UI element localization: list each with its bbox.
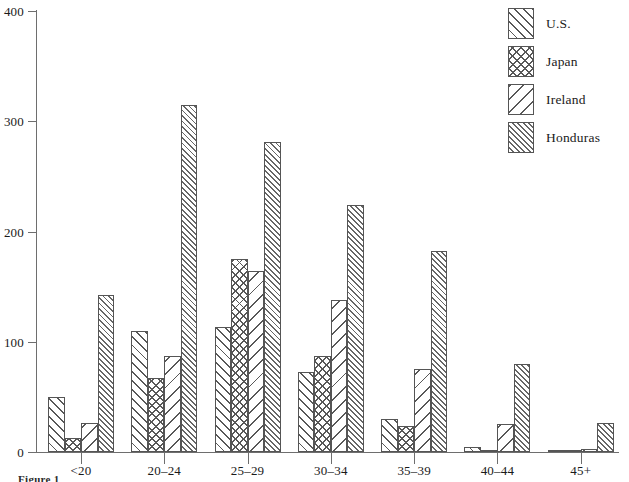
x-axis-tick-label: 40–44: [452, 464, 542, 478]
bar: [497, 424, 514, 452]
y-axis-tick-label: 100: [0, 336, 24, 349]
bar: [564, 450, 581, 452]
bar: [581, 449, 598, 452]
figure-caption: Figure 1: [18, 473, 60, 482]
x-axis-tick-label: 25–29: [203, 464, 293, 478]
x-axis-tick-label: 45+: [536, 464, 626, 478]
legend-swatch-us-icon: [508, 8, 534, 39]
bar: [65, 438, 82, 452]
bar: [164, 356, 181, 452]
y-axis-tick-label: 200: [0, 226, 24, 239]
bar: [331, 300, 348, 452]
y-axis-tick-label: 0: [0, 446, 24, 459]
x-axis-line: [36, 452, 619, 453]
bar: [481, 450, 498, 452]
bar: [264, 142, 281, 452]
bar: [314, 356, 331, 452]
legend-label-us: U.S.: [546, 17, 571, 31]
bar: [98, 295, 115, 452]
chart-legend: U.S. Japan Ireland Honduras: [508, 6, 629, 158]
legend-swatch-japan-icon: [508, 46, 534, 77]
legend-swatch-honduras-icon: [508, 122, 534, 153]
bar: [548, 450, 565, 452]
bar: [298, 372, 315, 452]
legend-item-us: U.S.: [508, 6, 629, 44]
y-axis-tick: [28, 452, 37, 453]
x-axis-tick-label: 20–24: [119, 464, 209, 478]
bar: [231, 259, 248, 452]
bar: [181, 105, 198, 452]
bar: [131, 331, 148, 452]
bar: [381, 419, 398, 452]
y-axis-tick-label: 400: [0, 5, 24, 18]
bar: [248, 271, 265, 452]
bar: [414, 369, 431, 452]
legend-label-japan: Japan: [546, 55, 578, 69]
bar: [514, 364, 531, 452]
legend-item-japan: Japan: [508, 44, 629, 82]
legend-label-ireland: Ireland: [546, 93, 586, 107]
bar: [215, 327, 232, 452]
bar: [464, 447, 481, 453]
bar-chart-figure: 0100200300400 <2020–2425–2930–3435–3940–…: [0, 0, 629, 482]
bar: [398, 426, 415, 452]
y-axis-tick-label: 300: [0, 115, 24, 128]
legend-label-honduras: Honduras: [546, 131, 600, 145]
bar: [347, 205, 364, 452]
x-axis-tick-label: 35–39: [369, 464, 459, 478]
legend-item-honduras: Honduras: [508, 120, 629, 158]
x-axis-tick-label: 30–34: [286, 464, 376, 478]
bar: [81, 423, 98, 452]
bar: [431, 251, 448, 452]
bar: [148, 378, 165, 452]
legend-swatch-ireland-icon: [508, 84, 534, 115]
legend-item-ireland: Ireland: [508, 82, 629, 120]
bar: [597, 423, 614, 452]
bar: [48, 397, 65, 452]
